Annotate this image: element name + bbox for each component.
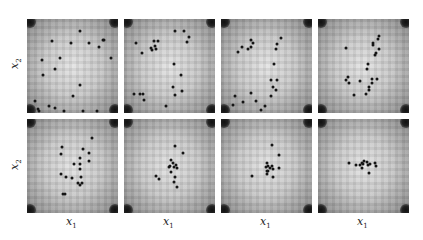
data-point xyxy=(170,170,173,173)
data-point xyxy=(271,176,274,179)
data-point xyxy=(78,157,81,160)
corner-blob-bl xyxy=(318,104,327,113)
data-point xyxy=(81,148,84,151)
data-point xyxy=(231,103,234,106)
data-point xyxy=(134,42,137,45)
data-point xyxy=(377,48,380,51)
panel-texture xyxy=(318,19,409,113)
data-point xyxy=(347,162,350,165)
data-point xyxy=(365,93,368,96)
data-point xyxy=(182,151,185,154)
scatter-panel-r0-c0 xyxy=(27,19,118,113)
panel-texture xyxy=(27,19,118,113)
corner-blob-br xyxy=(303,104,312,113)
corner-blob-bl xyxy=(221,104,230,113)
data-point xyxy=(233,95,236,98)
data-point xyxy=(81,110,84,113)
corner-blob-br xyxy=(109,204,118,213)
scatter-panel-r1-c2 xyxy=(221,119,312,213)
corner-blob-tr xyxy=(206,119,215,128)
data-point xyxy=(183,30,186,33)
data-point xyxy=(47,105,50,108)
corner-blob-br xyxy=(206,104,215,113)
data-point xyxy=(143,98,146,101)
data-point xyxy=(58,57,61,60)
corner-blob-bl xyxy=(221,204,230,213)
data-point xyxy=(247,48,250,51)
data-point xyxy=(59,172,62,175)
data-point xyxy=(185,40,188,43)
data-point xyxy=(78,163,81,166)
data-point xyxy=(153,39,156,42)
data-point xyxy=(345,47,348,50)
data-point xyxy=(276,43,279,46)
data-point xyxy=(173,180,176,183)
data-point xyxy=(79,176,82,179)
data-point xyxy=(87,160,90,163)
data-point xyxy=(172,85,175,88)
data-point xyxy=(96,110,99,113)
data-point xyxy=(34,99,37,102)
data-point xyxy=(70,177,73,180)
data-point xyxy=(376,78,379,81)
corner-blob-tr xyxy=(206,19,215,28)
data-point xyxy=(156,39,159,42)
data-point xyxy=(71,95,74,98)
data-point xyxy=(278,153,281,156)
data-point xyxy=(175,166,178,169)
scatter-panel-r0-c3 xyxy=(318,19,409,113)
data-point xyxy=(173,94,176,97)
data-point xyxy=(87,151,90,154)
data-point xyxy=(367,171,370,174)
x-axis-label-col-1: x1 xyxy=(163,215,174,230)
data-point xyxy=(237,50,240,53)
data-point xyxy=(65,176,68,179)
data-point xyxy=(73,163,76,166)
data-point xyxy=(173,30,176,33)
data-point xyxy=(264,165,267,168)
data-point xyxy=(360,166,363,169)
data-point xyxy=(271,85,274,88)
y-axis-label-row-0: x2 xyxy=(8,58,23,69)
data-point xyxy=(272,63,275,66)
scatter-panel-r0-c1 xyxy=(124,19,215,113)
data-point xyxy=(370,81,373,84)
data-point xyxy=(51,39,54,42)
corner-blob-br xyxy=(400,204,409,213)
scatter-panel-r1-c0 xyxy=(27,119,118,213)
scatter-panel-r1-c3 xyxy=(318,119,409,213)
corner-blob-tr xyxy=(400,19,409,28)
corner-blob-bl xyxy=(27,104,36,113)
x-axis-label-col-2: x1 xyxy=(260,215,271,230)
data-point xyxy=(374,53,377,56)
data-point xyxy=(40,59,43,62)
data-point xyxy=(377,34,380,37)
corner-blob-tr xyxy=(400,119,409,128)
corner-blob-bl xyxy=(27,204,36,213)
corner-blob-tr xyxy=(109,19,118,28)
data-point xyxy=(54,107,57,110)
corner-blob-br xyxy=(400,104,409,113)
panel-texture xyxy=(27,119,118,213)
data-point xyxy=(60,146,63,149)
data-point xyxy=(250,38,253,41)
data-point xyxy=(377,37,380,40)
scatter-panel-r0-c2 xyxy=(221,19,312,113)
x-axis-label-col-0: x1 xyxy=(66,215,77,230)
data-point xyxy=(274,89,277,92)
data-point xyxy=(250,92,253,95)
data-point xyxy=(175,185,178,188)
data-point xyxy=(367,85,370,88)
corner-blob-bl xyxy=(124,104,133,113)
data-point xyxy=(358,80,361,83)
data-point xyxy=(154,175,157,178)
data-point xyxy=(367,89,370,92)
data-point xyxy=(78,30,81,33)
data-point xyxy=(260,109,263,112)
data-point xyxy=(265,173,268,176)
data-point xyxy=(370,78,373,81)
data-point xyxy=(255,99,258,102)
data-point xyxy=(78,83,81,86)
data-point xyxy=(101,38,104,41)
data-point xyxy=(180,74,183,77)
